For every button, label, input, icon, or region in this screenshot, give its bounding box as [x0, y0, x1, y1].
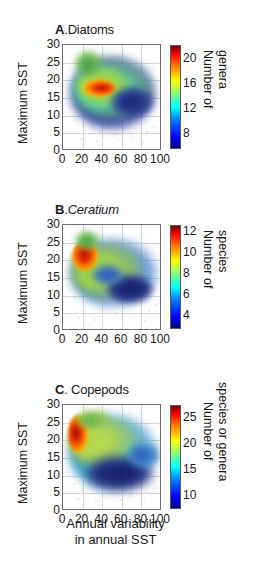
- panel-a-lowzone: [111, 87, 153, 117]
- panel-c-colorbar-label-line2: species or genera: [216, 382, 229, 481]
- panel-a-xtick-group: 0 20 40 60 80 100: [62, 152, 161, 168]
- panel-b-cb-tick: 8: [183, 267, 190, 279]
- figure-container: A.Diatoms Maximum SST 30 25 20 15 10 5 0: [0, 0, 261, 563]
- panel-b-xtick-group: 0 20 40 60 80 100: [62, 332, 161, 348]
- panel-c-cb-tick: 20: [183, 437, 196, 449]
- panel-c-upper-tail: [77, 410, 109, 428]
- panel-a-hotspot: [83, 79, 115, 97]
- panel-b-ylabel: Maximum SST: [16, 228, 30, 338]
- panel-b-ytick: 25: [32, 236, 60, 248]
- panel-c-ytick: 0: [32, 504, 60, 516]
- panel-a-cb-tick: 20: [183, 52, 196, 64]
- panel-a-xtick: 80: [134, 152, 147, 166]
- panel-b-cb-tick: 4: [183, 309, 190, 321]
- panel-a-ylabel: Maximum SST: [16, 48, 30, 158]
- panel-a-title: A.Diatoms: [55, 22, 114, 37]
- panel-b-ytick: 20: [32, 253, 60, 265]
- panel-b-xtick: 0: [59, 332, 66, 346]
- panel-a-xtick: 100: [150, 152, 170, 166]
- panel-c-separator: .: [64, 382, 71, 397]
- panel-b-ytick: 10: [32, 289, 60, 301]
- panel-b-ytick: 30: [32, 218, 60, 230]
- panel-c-ytick: 10: [32, 469, 60, 481]
- xaxis-title-line1: Annual variability: [18, 516, 213, 532]
- panel-b-ceratium: B.Ceratium Maximum SST 30 25 20 15 10 5 …: [0, 180, 261, 360]
- panel-a-ytick: 0: [32, 144, 60, 156]
- panel-a-xtick: 40: [95, 152, 108, 166]
- panel-b-cb-tick: 10: [183, 246, 196, 258]
- panel-a-colorbar-label-line2: genera: [216, 50, 229, 89]
- panel-b-upper-tail: [75, 231, 99, 249]
- panel-a-ytick: 10: [32, 109, 60, 121]
- panel-a-plot-area: [62, 44, 161, 150]
- panel-a-ytick-group: 30 25 20 15 10 5 0: [30, 44, 60, 150]
- figure-xaxis-title: Annual variability in annual SST: [18, 516, 213, 548]
- panel-a-ytick: 15: [32, 91, 60, 103]
- panel-a-ytick: 25: [32, 56, 60, 68]
- panel-c-right-tail: [129, 443, 159, 467]
- panel-c-title: C. Copepods: [55, 382, 129, 397]
- panel-c-ytick: 20: [32, 433, 60, 445]
- panel-c-ytick: 15: [32, 451, 60, 463]
- panel-a-ytick: 20: [32, 73, 60, 85]
- panel-c-plot-area: [62, 404, 161, 510]
- panel-a-colorbar: [170, 45, 181, 149]
- panel-b-midzone: [93, 265, 123, 285]
- panel-b-ytick: 5: [32, 306, 60, 318]
- panel-b-colorbar-label-line1: Number of: [201, 230, 214, 288]
- panel-b-cb-tick: 12: [183, 225, 196, 237]
- panel-b-xtick: 100: [150, 332, 170, 346]
- panel-c-name: Copepods: [71, 382, 129, 397]
- panel-c-cb-tick: 15: [183, 463, 196, 475]
- panel-a-xtick: 20: [75, 152, 88, 166]
- panel-a-diatoms: A.Diatoms Maximum SST 30 25 20 15 10 5 0: [0, 0, 261, 180]
- panel-c-ytick: 30: [32, 398, 60, 410]
- panel-b-cb-tick: 6: [183, 288, 190, 300]
- panel-c-colorbar: [170, 405, 181, 509]
- panel-a-cb-tick: 12: [183, 102, 196, 114]
- panel-a-ytick: 30: [32, 38, 60, 50]
- xaxis-title-line2: in annual SST: [18, 532, 213, 548]
- panel-a-name: Diatoms: [68, 22, 114, 37]
- panel-c-cb-tick: 25: [183, 411, 196, 423]
- panel-a-colorbar-label-line1: Number of: [201, 50, 214, 108]
- panel-c-colorbar-label-line1: Number of: [201, 402, 214, 460]
- panel-a-cb-tick: 16: [183, 77, 196, 89]
- panel-c-letter: C: [55, 382, 64, 397]
- panel-b-name: Ceratium: [68, 202, 119, 217]
- panel-a-xtick: 60: [114, 152, 127, 166]
- panel-b-letter: B: [55, 202, 64, 217]
- panel-c-ytick: 25: [32, 416, 60, 428]
- panel-b-ytick: 15: [32, 271, 60, 283]
- panel-b-xtick: 60: [114, 332, 127, 346]
- panel-b-ytick-group: 30 25 20 15 10 5 0: [30, 224, 60, 330]
- panel-b-xtick: 40: [95, 332, 108, 346]
- panel-b-xtick: 80: [134, 332, 147, 346]
- panel-b-plot-area: [62, 224, 161, 330]
- panel-b-colorbar: [170, 225, 181, 329]
- panel-c-cb-tick: 10: [183, 489, 196, 501]
- panel-b-ytick: 0: [32, 324, 60, 336]
- panel-a-upper-tail: [75, 51, 101, 75]
- panel-a-ytick: 5: [32, 126, 60, 138]
- panel-b-colorbar-label-line2: species: [216, 230, 229, 272]
- panel-a-xtick: 0: [59, 152, 66, 166]
- panel-a-letter: A: [55, 22, 64, 37]
- panel-a-cb-tick: 8: [183, 127, 190, 139]
- panel-c-ytick-group: 30 25 20 15 10 5 0: [30, 404, 60, 510]
- panel-b-xtick: 20: [75, 332, 88, 346]
- panel-c-ytick: 5: [32, 486, 60, 498]
- panel-b-title: B.Ceratium: [55, 202, 119, 217]
- panel-c-ylabel: Maximum SST: [16, 408, 30, 518]
